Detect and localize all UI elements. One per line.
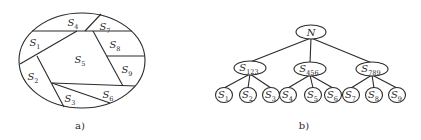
region-label-s5: S5	[75, 54, 86, 68]
edge-group-to-leaf	[224, 74, 250, 88]
region-label-s1: S1	[30, 37, 41, 51]
edge-root-to-group	[250, 38, 311, 62]
figure-canvas: S1S2S3S4S5S6S7S8S9 a) NS123S1S2S3S456S4S…	[0, 0, 421, 140]
region-label-s3: S3	[65, 93, 76, 107]
edge-group-to-leaf	[248, 74, 250, 88]
caption-a: a)	[75, 120, 85, 131]
region-label-s2: S2	[28, 71, 39, 85]
edge-group-to-leaf	[351, 75, 372, 88]
tree-node-root-label: N	[306, 27, 317, 38]
region-label-s9: S9	[122, 64, 133, 78]
edge-root-to-group	[310, 38, 311, 63]
edge-root-to-group	[311, 38, 372, 63]
region-label-s7: S7	[100, 21, 111, 35]
edge-group-to-leaf	[372, 75, 397, 88]
figure-a-partition: S1S2S3S4S5S6S7S8S9 a)	[19, 13, 145, 131]
edge-group-to-leaf	[288, 75, 310, 88]
figure-b-tree: NS123S1S2S3S456S4S5S6S789S7S8S9 b)	[216, 25, 406, 131]
divider-s5-s8-s9	[93, 31, 123, 86]
edge-group-to-leaf	[372, 75, 374, 88]
caption-b: b)	[299, 120, 309, 131]
region-label-s4: S4	[68, 17, 79, 31]
edge-group-to-leaf	[250, 74, 271, 88]
divider-s2-s5-s3	[37, 56, 64, 107]
edge-group-to-leaf	[310, 75, 333, 88]
region-label-s8: S8	[110, 39, 121, 53]
